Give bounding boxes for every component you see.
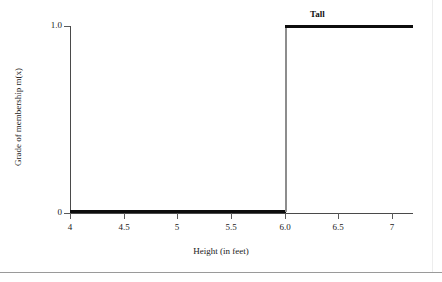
series-annotation-tall: Tall [310,9,325,19]
x-tick-label: 6.0 [279,222,290,232]
series-segment-high [285,25,413,28]
x-tick-label: 4 [68,222,73,232]
x-tick-mark [70,213,71,219]
page-edge-line [432,0,433,272]
x-axis-line [70,213,413,214]
y-tick-label: 0 [58,207,63,217]
y-tick-label: 1.0 [51,20,62,30]
x-tick-mark [124,213,125,219]
x-tick-label: 7 [390,222,395,232]
x-tick-mark [177,213,178,219]
series-segment-low [70,210,286,213]
x-tick-mark [392,213,393,219]
x-tick-mark [338,213,339,219]
x-tick-label: 6.5 [332,222,343,232]
x-tick-label: 4.5 [118,222,129,232]
x-tick-mark [231,213,232,219]
x-axis-title: Height (in feet) [0,246,442,256]
x-tick-label: 5 [175,222,180,232]
y-tick-mark [64,213,70,214]
page-divider-rule [0,272,442,273]
y-axis-line [70,26,71,214]
y-tick-mark [64,26,70,27]
x-tick-label: 5.5 [225,222,236,232]
x-tick-mark [285,213,286,219]
series-segment-riser [285,26,287,212]
chart-figure: Tall 4 4.5 5 5.5 6.0 6.5 7 0 1.0 Height … [0,0,442,282]
y-axis-title: Grade of membership m(x) [13,37,23,197]
